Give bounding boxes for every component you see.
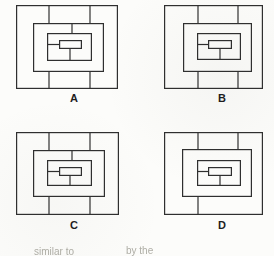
- option-d-label: D: [202, 219, 242, 231]
- footer-text-fragment: similar to: [34, 246, 74, 256]
- option-d-figure[interactable]: [164, 132, 263, 215]
- option-a-label: A: [54, 92, 94, 104]
- option-b-label: B: [202, 92, 242, 104]
- footer-text-fragment: by the: [126, 245, 153, 256]
- option-a-figure[interactable]: [16, 5, 118, 89]
- option-c-figure[interactable]: [16, 132, 119, 215]
- option-c-label: C: [54, 219, 94, 231]
- option-b-figure[interactable]: [164, 5, 263, 89]
- puzzle-canvas: A B C D similar to by the: [0, 0, 274, 256]
